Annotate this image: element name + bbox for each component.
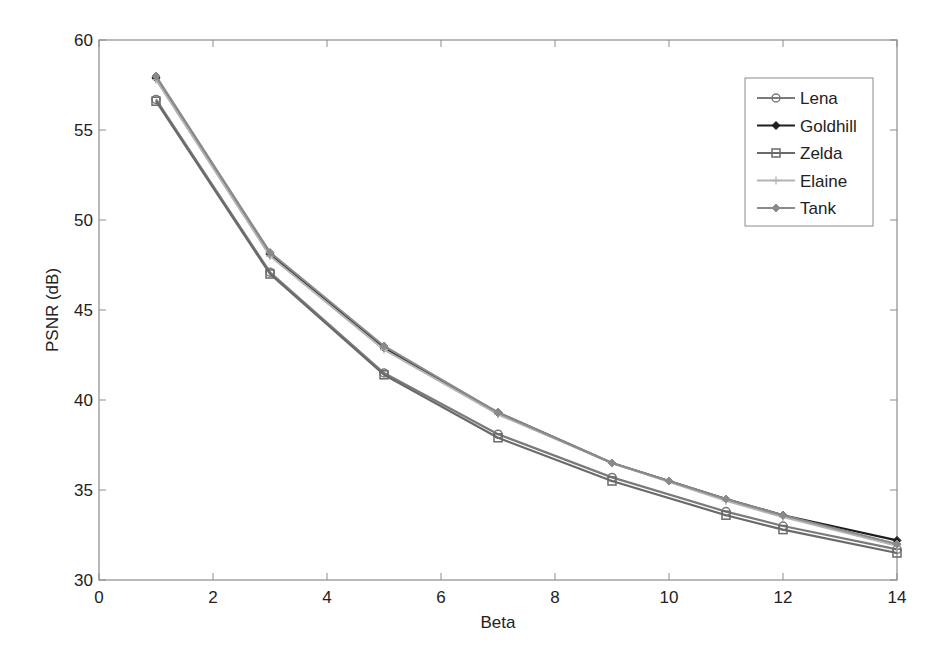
legend-label: Goldhill (800, 117, 857, 136)
y-tick-label: 30 (74, 571, 93, 590)
x-tick-label: 4 (322, 588, 331, 607)
x-tick-label: 10 (660, 588, 679, 607)
y-axis-label: PSNR (dB) (43, 268, 62, 352)
y-tick-label: 60 (74, 31, 93, 50)
y-tick-label: 40 (74, 391, 93, 410)
y-tick-label: 50 (74, 211, 93, 230)
y-tick-label: 35 (74, 481, 93, 500)
chart-canvas: 0246810121430354045505560 LenaGoldhillZe… (0, 0, 942, 663)
x-tick-label: 6 (436, 588, 445, 607)
x-tick-label: 12 (774, 588, 793, 607)
y-tick-label: 55 (74, 121, 93, 140)
legend-label: Elaine (800, 172, 847, 191)
legend-label: Zelda (800, 144, 843, 163)
x-tick-label: 8 (550, 588, 559, 607)
x-tick-label: 14 (888, 588, 907, 607)
legend-label: Tank (800, 199, 836, 218)
legend: LenaGoldhillZeldaElaineTank (745, 78, 873, 226)
legend-label: Lena (800, 89, 838, 108)
x-axis-label: Beta (481, 613, 517, 632)
psnr-vs-beta-chart: 0246810121430354045505560 LenaGoldhillZe… (0, 0, 942, 663)
x-tick-label: 2 (208, 588, 217, 607)
y-tick-label: 45 (74, 301, 93, 320)
x-tick-label: 0 (94, 588, 103, 607)
